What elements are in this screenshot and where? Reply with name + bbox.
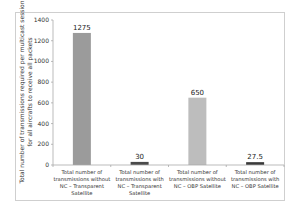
data-label: 650 xyxy=(191,89,204,97)
x-category-line: NC – Transparent xyxy=(118,183,162,190)
x-category-line: Total number of xyxy=(61,169,103,175)
x-category-line: transmissions with xyxy=(231,176,280,182)
x-category-label: Total number oftransmissions withNC – Tr… xyxy=(115,169,164,196)
data-label: 30 xyxy=(135,153,144,161)
x-category-line: NC – OBP Satellite xyxy=(232,183,279,189)
bar xyxy=(131,162,149,165)
x-category-line: Total number of xyxy=(176,169,218,175)
y-axis-title-text: Total number of transmissions required p… xyxy=(18,0,34,184)
y-axis-title: Total number of transmissions required p… xyxy=(18,0,34,184)
x-category-line: transmissions without xyxy=(169,176,226,182)
x-category-line: Total number of xyxy=(118,169,160,175)
y-tick-label: 600 xyxy=(38,99,50,106)
x-category-line: Total number of xyxy=(234,169,276,175)
y-tick-label: 800 xyxy=(38,78,50,85)
x-category-line: transmissions with xyxy=(115,176,164,182)
x-category-line: NC – Transparent xyxy=(60,183,104,190)
x-category-line: Satellite xyxy=(129,190,150,196)
y-tick-label: 400 xyxy=(38,120,50,127)
y-tick-label: 200 xyxy=(38,140,50,147)
bar-chart: Total number of transmissions required p… xyxy=(0,0,301,212)
y-tick-label: 1200 xyxy=(34,37,49,44)
y-axis-title-line: for all aircrafts to receive all packets xyxy=(26,37,34,147)
bar xyxy=(73,33,91,165)
y-tick-label: 0 xyxy=(45,161,49,168)
x-category-line: NC – OBP Satellite xyxy=(174,183,221,189)
data-label: 1275 xyxy=(73,24,91,32)
x-axis-categories: Total number oftransmissions withoutNC –… xyxy=(53,165,284,196)
x-category-label: Total number oftransmissions withoutNC –… xyxy=(169,169,226,189)
bars: 12753065027.5 xyxy=(73,24,264,165)
y-tick-label: 1000 xyxy=(34,57,49,64)
y-axis-ticks: 0200400600800100012001400 xyxy=(34,16,53,168)
x-category-line: Satellite xyxy=(71,190,92,196)
y-tick-label: 1400 xyxy=(34,16,49,23)
data-label: 27.5 xyxy=(247,153,263,161)
bar xyxy=(188,98,206,165)
x-category-line: transmissions without xyxy=(53,176,110,182)
x-category-label: Total number oftransmissions withNC – OB… xyxy=(231,169,280,189)
x-category-label: Total number oftransmissions withoutNC –… xyxy=(53,169,110,196)
bar xyxy=(246,162,264,165)
